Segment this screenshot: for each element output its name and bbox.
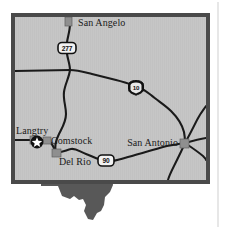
highway-shield-i10-label: 10: [133, 84, 140, 91]
city-marker-san-antonio[interactable]: [180, 139, 189, 148]
city-label-san-antonio: San Antonio: [127, 137, 178, 148]
map-canvas: 277 10 90 San Angelo Langtry Comstock De…: [0, 0, 227, 229]
city-label-comstock: Comstock: [51, 135, 92, 146]
city-label-san-angelo: San Angelo: [78, 17, 125, 28]
city-label-del-rio: Del Rio: [59, 156, 91, 167]
highway-shield-us277[interactable]: 277: [58, 43, 76, 54]
city-label-langtry: Langtry: [16, 125, 48, 136]
city-marker-comstock[interactable]: [43, 137, 51, 144]
highway-shield-i10[interactable]: 10: [129, 81, 144, 96]
highway-shield-us90-label: 90: [103, 157, 110, 164]
highway-shield-us90[interactable]: 90: [98, 155, 114, 166]
highway-shield-us277-label: 277: [62, 45, 73, 52]
star-landmark-icon[interactable]: [31, 136, 44, 149]
city-marker-san-angelo[interactable]: [65, 17, 72, 26]
map-figure: 277 10 90 San Angelo Langtry Comstock De…: [0, 0, 227, 229]
